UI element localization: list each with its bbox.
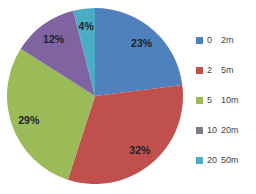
pie-slice (95, 8, 182, 96)
legend-item: 25m (196, 65, 239, 75)
pie-slice-label: 32% (129, 144, 151, 156)
legend-swatch-icon (196, 67, 203, 74)
legend-range-end: 10m (221, 95, 239, 105)
legend-swatch-icon (196, 37, 203, 44)
pie-slice-label: 29% (18, 114, 40, 126)
pie-slice-label: 23% (131, 37, 153, 49)
legend-range-start: 0 (207, 35, 221, 45)
pie-chart-figure: 23%32%29%12%4% 02m25m510m1020m2050m (0, 0, 256, 194)
legend-range-end: 50m (221, 155, 239, 165)
legend-range-start: 10 (207, 125, 221, 135)
legend: 02m25m510m1020m2050m (196, 35, 239, 165)
legend-range-start: 5 (207, 95, 221, 105)
legend-swatch-icon (196, 127, 203, 134)
legend-swatch-icon (196, 157, 203, 164)
legend-item: 1020m (196, 125, 239, 135)
legend-range-end: 5m (221, 65, 234, 75)
legend-item: 510m (196, 95, 239, 105)
pie-slice-label: 12% (43, 33, 65, 45)
legend-swatch-icon (196, 97, 203, 104)
pie-slice-label: 4% (79, 20, 95, 32)
legend-range-end: 2m (221, 35, 234, 45)
legend-item: 02m (196, 35, 239, 45)
legend-range-start: 2 (207, 65, 221, 75)
legend-item: 2050m (196, 155, 239, 165)
legend-range-start: 20 (207, 155, 221, 165)
legend-range-end: 20m (221, 125, 239, 135)
